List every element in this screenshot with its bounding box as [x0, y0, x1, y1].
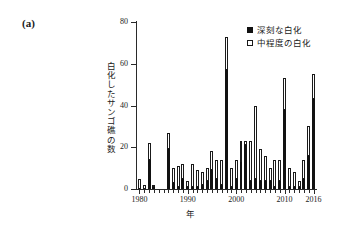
- bar-group: [186, 22, 189, 189]
- bar-segment-moderate: [148, 143, 151, 160]
- bar-segment-severe: [152, 187, 155, 189]
- bar-segment-severe: [269, 181, 272, 189]
- bar-segment-severe: [254, 179, 257, 189]
- x-axis-tick-label: 1980: [131, 195, 147, 204]
- legend-item-severe: 深刻な白化: [247, 24, 311, 36]
- legend-item-moderate: 中程度の白化: [247, 37, 311, 49]
- x-axis-tick: [207, 190, 208, 193]
- x-axis-tick: [256, 190, 257, 193]
- bar-group: [215, 22, 218, 189]
- y-axis-title: 白化したサンゴ礁の数: [104, 62, 118, 154]
- bar-segment-severe: [307, 156, 310, 189]
- bar-segment-moderate: [269, 168, 272, 181]
- bar-segment-moderate: [210, 151, 213, 170]
- bar-group: [172, 22, 175, 189]
- bar-segment-severe: [191, 187, 194, 189]
- x-axis-tick: [144, 190, 145, 193]
- x-axis-tick: [289, 190, 290, 193]
- bar-group: [220, 22, 223, 189]
- y-axis-tick: [131, 106, 136, 107]
- x-axis-tick: [314, 190, 315, 194]
- bar-segment-severe: [298, 187, 301, 189]
- bar-segment-moderate: [235, 160, 238, 179]
- x-axis-tick: [231, 190, 232, 193]
- legend-label-moderate: 中程度の白化: [257, 38, 311, 48]
- bar-segment-severe: [201, 185, 204, 189]
- x-axis-tick: [246, 190, 247, 193]
- x-axis-tick: [159, 190, 160, 193]
- panel-label: (a): [22, 17, 35, 29]
- x-axis-tick: [299, 190, 300, 193]
- x-axis-tick-label: 1990: [180, 195, 196, 204]
- x-axis-tick: [222, 190, 223, 193]
- bar-segment-moderate: [206, 168, 209, 181]
- bar-segment-severe: [264, 181, 267, 189]
- bar-group: [201, 22, 204, 189]
- bar-segment-severe: [259, 181, 262, 189]
- bar-segment-moderate: [259, 149, 262, 180]
- y-axis-tick-label: 80: [102, 18, 128, 26]
- bar-segment-moderate: [172, 168, 175, 183]
- bar-group: [181, 22, 184, 189]
- x-axis-tick: [173, 190, 174, 193]
- x-axis-tick: [139, 190, 140, 194]
- bar-group: [240, 22, 243, 189]
- x-axis-title: 年: [0, 207, 354, 219]
- x-axis-tick: [212, 190, 213, 193]
- bar-segment-severe: [186, 187, 189, 189]
- y-axis-tick: [131, 189, 136, 190]
- bar-group: [177, 22, 180, 189]
- y-axis-tick-label: 0: [102, 185, 128, 193]
- y-axis-title-char: 数: [104, 145, 118, 154]
- bar-group: [143, 22, 146, 189]
- bar-group: [152, 22, 155, 189]
- x-axis-tick: [270, 190, 271, 193]
- bar-group: [235, 22, 238, 189]
- bar-segment-severe: [215, 179, 218, 189]
- bar-segment-severe: [278, 181, 281, 189]
- x-axis-tick: [188, 190, 189, 194]
- bar-segment-severe: [240, 162, 243, 189]
- bar-segment-moderate: [220, 160, 223, 185]
- x-axis-tick: [217, 190, 218, 193]
- x-axis-tick: [178, 190, 179, 193]
- x-axis-tick: [149, 190, 150, 193]
- bar-segment-moderate: [225, 37, 228, 70]
- x-axis-tick: [154, 190, 155, 193]
- bar-segment-severe: [283, 110, 286, 189]
- bar-group: [230, 22, 233, 189]
- bar-segment-moderate: [278, 160, 281, 181]
- bar-segment-severe: [244, 145, 247, 189]
- bar-segment-severe: [181, 179, 184, 189]
- bar-segment-severe: [225, 70, 228, 189]
- bar-segment-moderate: [191, 164, 194, 187]
- bar-segment-moderate: [288, 168, 291, 187]
- bar-segment-moderate: [201, 172, 204, 185]
- bar-segment-moderate: [138, 179, 141, 189]
- y-axis-tick: [131, 147, 136, 148]
- x-axis-tick: [265, 190, 266, 193]
- y-axis-tick: [131, 64, 136, 65]
- bar-segment-severe: [230, 187, 233, 189]
- bar-group: [312, 22, 315, 189]
- bar-segment-moderate: [196, 170, 199, 187]
- x-axis-tick-label: 2016: [306, 195, 322, 204]
- x-axis-tick: [236, 190, 237, 194]
- bar-segment-severe: [210, 170, 213, 189]
- x-axis-tick: [202, 190, 203, 193]
- x-axis-tick: [260, 190, 261, 193]
- bar-segment-severe: [235, 179, 238, 189]
- bar-segment-moderate: [177, 166, 180, 187]
- bar-group: [206, 22, 209, 189]
- bar-segment-moderate: [215, 160, 218, 179]
- bar-group: [138, 22, 141, 189]
- x-axis-tick-label: 2000: [228, 195, 244, 204]
- bar-segment-severe: [148, 160, 151, 189]
- x-axis-tick: [183, 190, 184, 193]
- bar-segment-severe: [302, 179, 305, 189]
- bar-segment-severe: [206, 181, 209, 189]
- bar-segment-moderate: [249, 141, 252, 181]
- bar-segment-moderate: [264, 156, 267, 181]
- bar-segment-severe: [273, 187, 276, 189]
- x-axis-tick: [197, 190, 198, 193]
